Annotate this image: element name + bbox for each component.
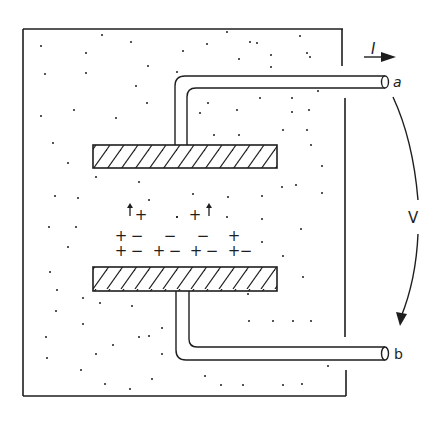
terminal-a-label: a [393,74,402,90]
charge-row1-1: + [189,206,202,224]
outer-medium-box [23,29,346,396]
voltage-label: V [408,209,419,227]
charge-row3-6: + [228,242,241,260]
bottom-plate [93,267,277,291]
top-lead-wire [175,76,389,145]
charge-row1-0: + [135,206,148,224]
charge-distribution: + + + − − − + + − + − + − + − [115,203,253,260]
charge-row3-4: + [190,242,203,260]
current-label: I [371,40,376,58]
up-arrow-icon [206,203,212,216]
top-plate [93,145,277,168]
dielectric-speckles [40,31,329,390]
charge-row3-0: + [115,242,128,260]
charge-row3-7: − [240,242,253,260]
up-arrow-icon [127,203,133,216]
charge-row3-2: + [153,242,166,260]
charge-row3-1: − [131,242,144,260]
bottom-lead-wire [176,291,389,360]
capacitor-diagram: + + + − − − + + − + − + − + − I a b V [0,0,442,426]
charge-row3-3: − [169,242,182,260]
terminal-b-label: b [394,346,403,362]
charge-row3-5: − [206,242,219,260]
current-arrow [364,52,396,62]
